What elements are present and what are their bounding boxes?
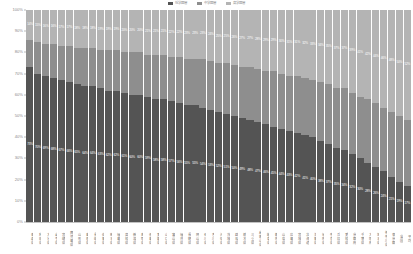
bar-column[interactable]: 23%55%: [191, 10, 198, 222]
bar-segment-mid: [26, 40, 33, 68]
bar-column[interactable]: 16%69%: [42, 10, 49, 222]
bar-column[interactable]: 18%64%: [81, 10, 88, 222]
bar-column[interactable]: 22%56%: [176, 10, 183, 222]
bar-segment-low: 28%: [364, 163, 371, 222]
bar-value-label: 53%: [208, 164, 214, 167]
bar-column[interactable]: 44%26%: [372, 10, 379, 222]
bar-segment-high: 44%: [372, 10, 379, 103]
bar-column[interactable]: 28%47%: [254, 10, 261, 222]
bar-value-label: 70%: [35, 146, 41, 149]
bar-value-label: 19%: [397, 200, 403, 203]
legend-label: 高学歴層: [233, 1, 245, 5]
bar-column[interactable]: 20%60%: [129, 10, 136, 222]
bar-segment-mid: [121, 52, 128, 92]
bar-column[interactable]: 52%17%: [404, 10, 411, 222]
bar-value-label: 31%: [286, 41, 292, 44]
bar-column[interactable]: 25%52%: [215, 10, 222, 222]
bar-segment-high: 20%: [136, 10, 143, 52]
bar-column[interactable]: 17%67%: [58, 10, 65, 222]
x-axis-tick-label: 奈良県: [325, 223, 332, 254]
bar-segment-mid: [191, 59, 198, 106]
bar-value-label: 34%: [318, 44, 324, 47]
bar-segment-high: 26%: [231, 10, 238, 65]
bar-column[interactable]: 26%50%: [231, 10, 238, 222]
bar-segment-low: 54%: [199, 108, 206, 222]
bar-segment-mid: [309, 80, 316, 137]
bar-column[interactable]: 19%62%: [105, 10, 112, 222]
bar-column[interactable]: 23%54%: [199, 10, 206, 222]
bar-value-label: 26%: [231, 36, 237, 39]
y-axis-tick-label: 100%: [13, 8, 23, 12]
bar-value-label: 26%: [373, 193, 379, 196]
bar-column[interactable]: 39%32%: [349, 10, 356, 222]
bar-value-label: 21%: [161, 31, 167, 34]
bar-column[interactable]: 31%43%: [286, 10, 293, 222]
bar-segment-mid: [176, 57, 183, 104]
bar-column[interactable]: 24%53%: [207, 10, 214, 222]
bar-value-label: 18%: [74, 28, 80, 31]
bar-column[interactable]: 19%62%: [113, 10, 120, 222]
x-axis-tick-label: 鹿児島県: [66, 223, 73, 254]
y-axis-tick-label: 30%: [15, 156, 23, 160]
bar-segment-high: 46%: [380, 10, 387, 108]
bar-segment-high: 32%: [301, 10, 308, 78]
bar-column[interactable]: 32%41%: [301, 10, 308, 222]
bar-value-label: 19%: [98, 29, 104, 32]
bar-segment-low: 73%: [26, 67, 33, 222]
x-axis-tick-label: 滋賀県: [309, 223, 316, 254]
bar-column[interactable]: 37%35%: [333, 10, 340, 222]
bar-segment-mid: [246, 67, 253, 120]
bar-column[interactable]: 33%40%: [309, 10, 316, 222]
bar-value-label: 63%: [98, 154, 104, 157]
bar-column[interactable]: 34%38%: [317, 10, 324, 222]
bar-column[interactable]: 18%65%: [74, 10, 81, 222]
x-axis-tick-label: 愛知県: [341, 223, 348, 254]
bar-column[interactable]: 46%24%: [380, 10, 387, 222]
bar-column[interactable]: 19%63%: [97, 10, 104, 222]
bar-column[interactable]: 18%64%: [89, 10, 96, 222]
bar-column[interactable]: 50%19%: [396, 10, 403, 222]
y-axis-tick-label: 40%: [15, 135, 23, 139]
bar-column[interactable]: 21%59%: [144, 10, 151, 222]
bar-segment-low: 64%: [81, 86, 88, 222]
bar-column[interactable]: 30%44%: [278, 10, 285, 222]
bar-segment-high: 25%: [223, 10, 230, 63]
bar-column[interactable]: 15%70%: [34, 10, 41, 222]
bar-column[interactable]: 37%34%: [341, 10, 348, 222]
bar-value-label: 64%: [82, 153, 88, 156]
bar-column[interactable]: 42%28%: [364, 10, 371, 222]
bar-column[interactable]: 29%46%: [262, 10, 269, 222]
bar-column[interactable]: 25%51%: [223, 10, 230, 222]
bar-column[interactable]: 35%37%: [325, 10, 332, 222]
bar-column[interactable]: 20%61%: [121, 10, 128, 222]
x-axis-tick-label: 島根県: [81, 223, 88, 254]
bar-column[interactable]: 21%58%: [160, 10, 167, 222]
bar-segment-low: 52%: [215, 112, 222, 222]
bar-column[interactable]: 21%58%: [152, 10, 159, 222]
bar-value-label: 58%: [161, 159, 167, 162]
bar-column[interactable]: 17%66%: [66, 10, 73, 222]
bar-column[interactable]: 27%49%: [239, 10, 246, 222]
x-axis-tick-label: 高知県: [121, 223, 128, 254]
bar-column[interactable]: 16%68%: [50, 10, 57, 222]
bar-column[interactable]: 14%73%: [26, 10, 33, 222]
bar-value-label: 30%: [357, 189, 363, 192]
bar-segment-high: 20%: [129, 10, 136, 52]
bar-column[interactable]: 27%48%: [246, 10, 253, 222]
bar-column[interactable]: 23%55%: [184, 10, 191, 222]
bar-segment-mid: [199, 59, 206, 108]
bar-column[interactable]: 20%60%: [136, 10, 143, 222]
bar-segment-high: 19%: [113, 10, 120, 50]
bar-segment-low: 37%: [325, 144, 332, 222]
bar-value-label: 15%: [35, 24, 41, 27]
bar-value-label: 46%: [263, 172, 269, 175]
bar-column[interactable]: 48%21%: [388, 10, 395, 222]
legend-label: 中学歴層: [204, 1, 216, 5]
bar-column[interactable]: 22%57%: [168, 10, 175, 222]
bar-column[interactable]: 41%30%: [357, 10, 364, 222]
bar-column[interactable]: 29%45%: [270, 10, 277, 222]
bar-value-label: 65%: [74, 152, 80, 155]
bar-column[interactable]: 31%42%: [294, 10, 301, 222]
x-axis-labels: 青森県秋田県大分県岩手県宮崎県鹿児島県山形県島根県長崎県佐賀県熊本県福島県高知県…: [26, 223, 411, 254]
bar-value-label: 48%: [389, 59, 395, 62]
